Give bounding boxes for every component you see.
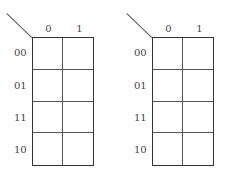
corner-diagonal: [126, 13, 152, 38]
row-label: 11: [134, 112, 152, 123]
row-label: 10: [134, 144, 152, 155]
karnaugh-map-right: 0 1 00 01 11 10: [120, 0, 229, 177]
kmap-cell: [33, 102, 63, 134]
karnaugh-map-left: 0 1 00 01 11 10: [0, 0, 110, 177]
kmap-cell: [33, 70, 63, 102]
kmap-cell: [183, 38, 213, 70]
kmap-cell: [153, 133, 183, 165]
kmap-cell: [183, 102, 213, 134]
kmap-cell: [153, 38, 183, 70]
kmap-cell: [63, 70, 93, 102]
kmap-cell: [33, 38, 63, 70]
kmap-cell: [183, 70, 213, 102]
row-label: 01: [14, 80, 32, 91]
column-label: 0: [153, 23, 184, 34]
kmap-cell: [33, 133, 63, 165]
row-label: 11: [14, 112, 32, 123]
column-label: 0: [33, 23, 64, 34]
row-label: 10: [14, 144, 32, 155]
column-label: 1: [184, 23, 215, 34]
row-label: 01: [134, 80, 152, 91]
corner-diagonal: [6, 13, 32, 38]
row-label: 00: [14, 47, 32, 58]
kmap-cell: [153, 102, 183, 134]
kmap-cell: [63, 102, 93, 134]
row-label: 00: [134, 47, 152, 58]
kmap-cell: [153, 70, 183, 102]
column-label: 1: [64, 23, 95, 34]
kmap-cell: [63, 133, 93, 165]
kmap-grid: [32, 37, 94, 166]
kmap-grid: [152, 37, 214, 166]
kmap-cell: [183, 133, 213, 165]
kmap-cell: [63, 38, 93, 70]
